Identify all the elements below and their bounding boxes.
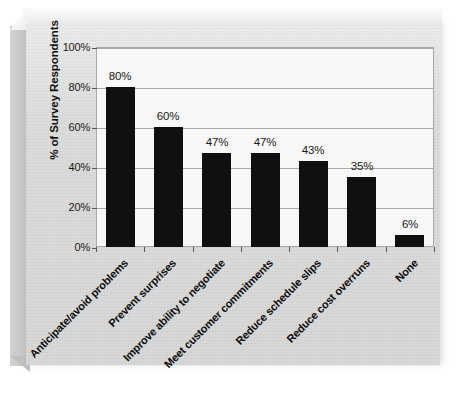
y-axis-tick-labels: 0%20%40%60%80%100%: [26, 47, 90, 247]
x-axis-tick-mark: [144, 247, 145, 252]
x-axis-tick-mark: [193, 247, 194, 252]
y-axis-tick-label: 80%: [69, 81, 90, 93]
y-axis-tick-mark: [92, 168, 97, 169]
bar-value-label: 43%: [283, 144, 343, 156]
bar: [202, 153, 231, 247]
chart-screenshot: % of Survey Respondents 0%20%40%60%80%10…: [0, 0, 466, 401]
x-axis-tick-mark: [337, 247, 338, 252]
y-axis-tick-mark: [92, 208, 97, 209]
gridline: [97, 48, 433, 49]
bar-value-label: 60%: [138, 110, 198, 122]
x-axis-tick-mark: [241, 247, 242, 252]
x-axis-tick-mark: [289, 247, 290, 252]
bar: [347, 177, 376, 247]
bar-value-label: 35%: [332, 160, 392, 172]
y-axis-tick-mark: [92, 128, 97, 129]
x-axis-tick-mark: [386, 247, 387, 252]
bar-chart: % of Survey Respondents 0%20%40%60%80%10…: [26, 25, 440, 365]
bar-value-label: 6%: [380, 218, 440, 230]
y-axis-tick-label: 100%: [63, 41, 90, 53]
bar: [106, 87, 135, 247]
x-axis-tick-mark: [434, 247, 435, 252]
gridline: [97, 88, 433, 89]
y-axis-tick-label: 40%: [69, 161, 90, 173]
bar: [299, 161, 328, 247]
y-axis-tick-label: 60%: [69, 121, 90, 133]
gridline: [97, 128, 433, 129]
x-axis-tick-mark: [96, 247, 97, 252]
y-axis-tick-mark: [92, 48, 97, 49]
bar: [251, 153, 280, 247]
y-axis-tick-label: 20%: [69, 201, 90, 213]
bar-value-label: 80%: [90, 70, 150, 82]
bar: [395, 235, 424, 247]
y-axis-tick-mark: [92, 88, 97, 89]
bar: [154, 127, 183, 247]
y-axis-tick-label: 0%: [75, 241, 91, 253]
